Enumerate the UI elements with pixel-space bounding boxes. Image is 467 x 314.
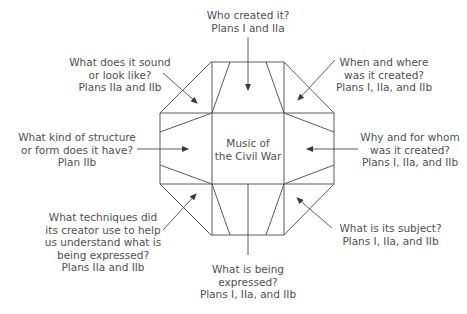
- label-text: When and where: [329, 56, 439, 69]
- label-why-whom: Why and for whom was it created? Plans I…: [355, 131, 465, 169]
- label-text: was it created?: [329, 69, 439, 82]
- label-text: us understand what is: [43, 236, 163, 249]
- label-text: expressed?: [188, 276, 308, 289]
- label-plans: Plans IIa and IIb: [43, 261, 163, 274]
- label-structure-form: What kind of structure or form does it h…: [17, 131, 137, 169]
- center-label: Music of the Civil War: [212, 137, 284, 162]
- label-plans: Plans I, IIa, and IIb: [188, 288, 308, 301]
- arrow-bottom-right: [297, 198, 332, 228]
- label-text: What techniques did: [43, 211, 163, 224]
- label-when-where: When and where was it created? Plans I, …: [329, 56, 439, 94]
- arrow-bottom-left: [163, 194, 196, 230]
- label-text: What is being: [188, 263, 308, 276]
- label-plans: Plans I, IIa, and IIb: [355, 156, 465, 169]
- label-plans: Plans I, IIa, and IIb: [333, 235, 448, 248]
- label-text: being expressed?: [43, 249, 163, 262]
- label-text: its creator use to help: [43, 224, 163, 237]
- label-techniques: What techniques did its creator use to h…: [43, 211, 163, 274]
- label-text: or look like?: [65, 69, 175, 82]
- label-text: or form does it have?: [17, 144, 137, 157]
- label-subject: What is its subject? Plans I, IIa, and I…: [333, 222, 448, 247]
- label-who-created: Who created it? Plans I and IIa: [188, 9, 308, 34]
- diagram-canvas: Music of the Civil War Who created it? P…: [0, 0, 467, 314]
- label-text: was it created?: [355, 144, 465, 157]
- label-plans: Plans I, IIa, and IIb: [329, 81, 439, 94]
- label-plans: Plans IIa and IIb: [65, 81, 175, 94]
- label-text: What does it sound: [65, 56, 175, 69]
- label-being-expressed: What is being expressed? Plans I, IIa, a…: [188, 263, 308, 301]
- center-label-line-2: the Civil War: [212, 150, 284, 163]
- label-plans: Plan IIb: [17, 156, 137, 169]
- label-sound-look: What does it sound or look like? Plans I…: [65, 56, 175, 94]
- label-text: Who created it?: [188, 9, 308, 22]
- label-text: What kind of structure: [17, 131, 137, 144]
- label-text: What is its subject?: [333, 222, 448, 235]
- label-text: Why and for whom: [355, 131, 465, 144]
- center-label-line-1: Music of: [212, 137, 284, 150]
- label-plans: Plans I and IIa: [188, 22, 308, 35]
